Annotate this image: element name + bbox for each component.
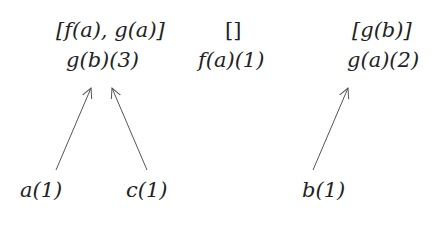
edge-c-to-gb: [112, 88, 147, 170]
top-mid-list: []: [225, 20, 241, 41]
top-left-list: [f(a), g(a)]: [56, 20, 165, 41]
top-mid-node: f(a)(1): [198, 50, 264, 71]
top-right-list: [g(b)]: [352, 20, 412, 41]
leaf-b: b(1): [302, 180, 345, 201]
leaf-a: a(1): [20, 180, 62, 201]
top-right-node: g(a)(2): [347, 50, 419, 71]
leaf-c: c(1): [126, 180, 168, 201]
edge-a-to-gb: [56, 88, 91, 170]
top-left-node: g(b)(3): [66, 50, 139, 71]
edge-b-to-ga: [313, 88, 348, 170]
